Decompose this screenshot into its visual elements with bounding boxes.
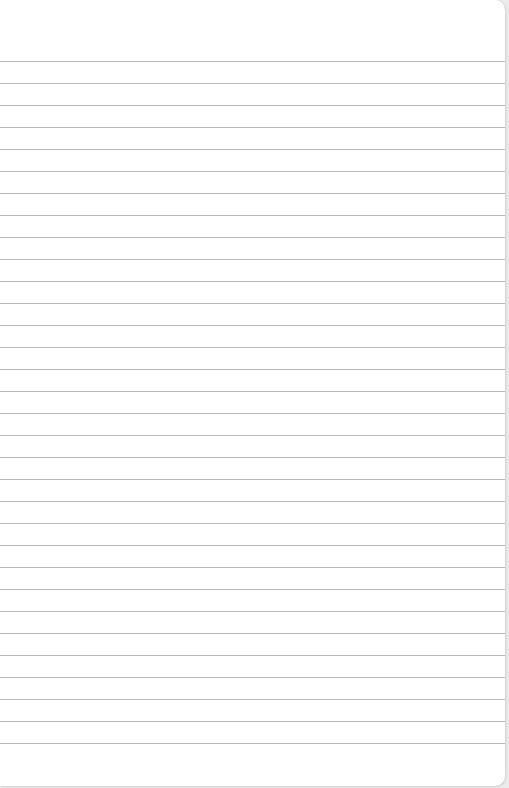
ruled-line — [0, 325, 505, 326]
ruled-line — [0, 105, 505, 106]
ruled-line — [0, 545, 505, 546]
ruled-line — [0, 457, 505, 458]
ruled-line — [0, 633, 505, 634]
ruled-line — [0, 479, 505, 480]
ruled-line — [0, 501, 505, 502]
ruled-line — [0, 391, 505, 392]
ruled-line — [0, 259, 505, 260]
ruled-lines — [0, 0, 505, 786]
ruled-line — [0, 61, 505, 62]
ruled-line — [0, 127, 505, 128]
ruled-line — [0, 567, 505, 568]
ruled-line — [0, 369, 505, 370]
ruled-line — [0, 149, 505, 150]
ruled-line — [0, 435, 505, 436]
ruled-line — [0, 721, 505, 722]
ruled-line — [0, 699, 505, 700]
ruled-line — [0, 677, 505, 678]
ruled-line — [0, 611, 505, 612]
ruled-line — [0, 743, 505, 744]
ruled-line — [0, 237, 505, 238]
ruled-line — [0, 215, 505, 216]
ruled-line — [0, 83, 505, 84]
ruled-line — [0, 523, 505, 524]
ruled-line — [0, 655, 505, 656]
ruled-line — [0, 413, 505, 414]
ruled-line — [0, 347, 505, 348]
ruled-line — [0, 281, 505, 282]
ruled-line — [0, 171, 505, 172]
ruled-line — [0, 193, 505, 194]
ruled-line — [0, 589, 505, 590]
lined-paper-page — [0, 0, 505, 786]
ruled-line — [0, 303, 505, 304]
